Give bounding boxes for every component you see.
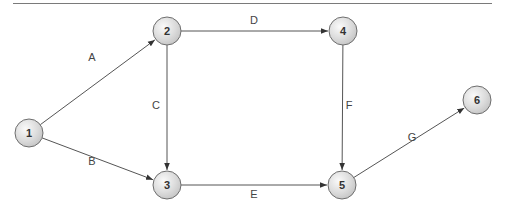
node-label: 4 xyxy=(340,25,347,37)
nodes: 123456 xyxy=(15,17,491,199)
node-5: 5 xyxy=(328,171,356,199)
node-label: 2 xyxy=(164,25,170,37)
edge-b-arrow xyxy=(42,138,153,180)
node-label: 6 xyxy=(474,94,480,106)
network-diagram: 123456 ABCDEFG xyxy=(0,0,506,223)
edge-label-g: G xyxy=(408,131,417,143)
edge-label-d: D xyxy=(250,14,258,26)
edge-label-a: A xyxy=(88,51,96,63)
node-3: 3 xyxy=(153,171,181,199)
node-4: 4 xyxy=(329,17,357,45)
node-label: 1 xyxy=(26,127,32,139)
node-label: 5 xyxy=(339,179,345,191)
edge-label-b: B xyxy=(88,155,95,167)
edge-a-arrow xyxy=(40,40,155,125)
node-1: 1 xyxy=(15,119,43,147)
node-2: 2 xyxy=(153,17,181,45)
edge-labels: ABCDEFG xyxy=(88,14,416,200)
edge-label-e: E xyxy=(250,188,257,200)
edge-label-c: C xyxy=(152,99,160,111)
edge-f-arrow xyxy=(342,45,343,170)
node-label: 3 xyxy=(164,179,170,191)
edge-label-f: F xyxy=(346,99,353,111)
edges xyxy=(40,31,464,185)
node-6: 6 xyxy=(463,86,491,114)
